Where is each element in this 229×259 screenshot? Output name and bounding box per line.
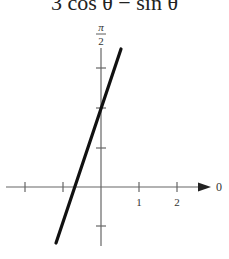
tick-label-1: 1: [136, 196, 142, 208]
tick-label-2: 2: [174, 196, 180, 208]
polar-graph: 1 2 0 π 2: [0, 0, 229, 259]
svg-text:π: π: [98, 21, 104, 33]
graph-line: [56, 49, 121, 243]
svg-text:2: 2: [98, 35, 104, 47]
vertical-axis-label: π 2: [96, 21, 106, 47]
arrow-head-icon: [198, 183, 211, 192]
polar-axis-label: 0: [216, 180, 222, 194]
